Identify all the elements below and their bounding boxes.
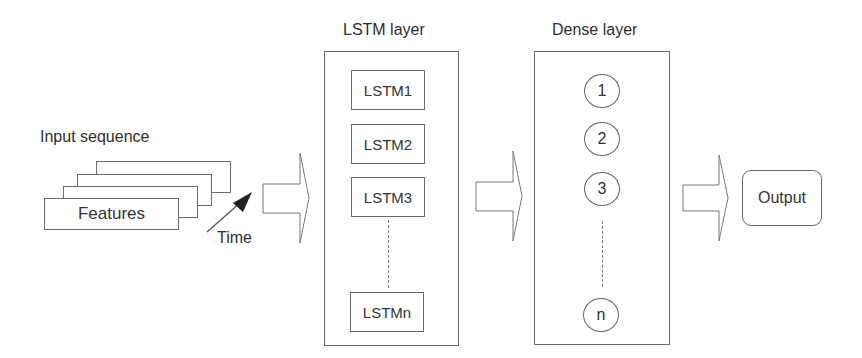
time-label: Time	[217, 229, 252, 247]
block-arrow-icon-3	[682, 154, 730, 242]
output-box: Output	[742, 170, 822, 226]
lstm-cell-3: LSTM3	[351, 177, 425, 217]
dense-ellipsis-line	[602, 221, 603, 287]
lstm-ellipsis-line	[388, 220, 389, 288]
features-label: Features	[78, 204, 145, 224]
lstm-cell-n: LSTMn	[350, 292, 424, 332]
feature-frame-1: Features	[44, 198, 179, 230]
dense-layer-title: Dense layer	[552, 21, 637, 39]
lstm-cell-1: LSTM1	[351, 70, 425, 110]
dense-node-2: 2	[584, 122, 620, 156]
lstm-cell-2: LSTM2	[351, 124, 425, 164]
block-arrow-icon-1	[262, 152, 310, 244]
dense-node-3: 3	[584, 172, 620, 206]
dense-node-1: 1	[584, 74, 620, 108]
input-sequence-title: Input sequence	[40, 128, 149, 146]
block-arrow-icon-2	[475, 150, 523, 242]
dense-node-n: n	[583, 298, 619, 332]
lstm-layer-title: LSTM layer	[343, 21, 425, 39]
